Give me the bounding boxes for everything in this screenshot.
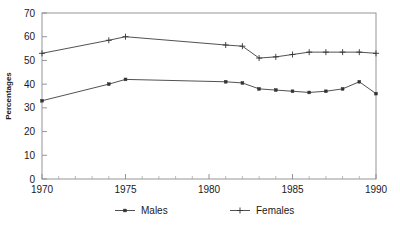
data-point-marker xyxy=(358,80,361,83)
x-tick-label: 1970 xyxy=(31,184,54,195)
data-point-marker xyxy=(258,87,261,90)
y-tick-label: 70 xyxy=(24,8,36,19)
y-axis-title: Percentages xyxy=(4,72,13,120)
y-tick-label: 0 xyxy=(29,174,35,185)
line-chart: 010203040506070 19701975198019851990 Per… xyxy=(0,0,400,230)
y-tick-label: 40 xyxy=(24,79,36,90)
y-tick-label: 60 xyxy=(24,31,36,42)
x-tick-label: 1985 xyxy=(281,184,304,195)
y-tick-label: 30 xyxy=(24,102,36,113)
chart-svg: 010203040506070 19701975198019851990 Per… xyxy=(0,0,400,230)
y-tick-label: 10 xyxy=(24,150,36,161)
data-point-marker xyxy=(107,83,110,86)
data-point-marker xyxy=(308,91,311,94)
data-point-marker xyxy=(124,209,127,212)
chart-legend: MalesFemales xyxy=(115,205,294,216)
data-point-marker xyxy=(274,89,277,92)
x-tick-label: 1990 xyxy=(365,184,388,195)
plot-frame xyxy=(42,13,376,179)
data-point-marker xyxy=(124,78,127,81)
x-tick-label: 1980 xyxy=(198,184,221,195)
data-point-marker xyxy=(224,80,227,83)
y-tick-label: 50 xyxy=(24,55,36,66)
data-point-marker xyxy=(241,82,244,85)
legend-item-males[interactable]: Males xyxy=(115,205,168,216)
x-tick-label: 1975 xyxy=(114,184,137,195)
legend-label: Males xyxy=(141,205,168,216)
legend-item-females[interactable]: Females xyxy=(230,205,294,216)
data-point-marker xyxy=(291,90,294,93)
plot-area-border xyxy=(42,13,376,179)
data-point-marker xyxy=(325,90,328,93)
data-point-marker xyxy=(375,92,378,95)
data-point-marker xyxy=(41,99,44,102)
y-tick-label: 20 xyxy=(24,126,36,137)
legend-label: Females xyxy=(256,205,294,216)
data-point-marker xyxy=(341,87,344,90)
